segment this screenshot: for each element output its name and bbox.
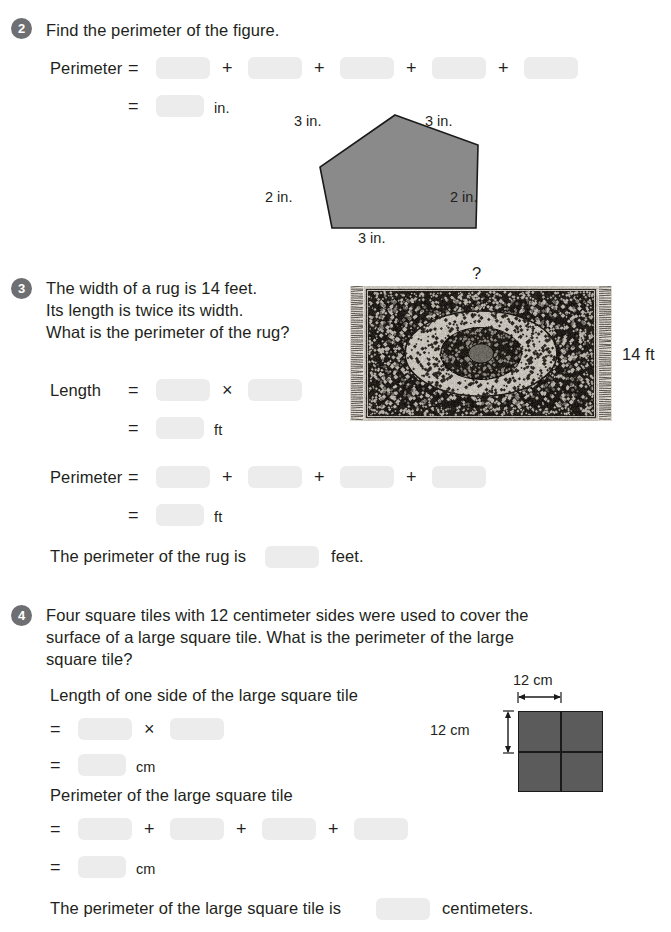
q4-side-equals-1: = [50, 718, 61, 740]
pentagon-label-right: 2 in. [450, 189, 477, 205]
q4-perimeter-equals-1: = [50, 818, 61, 840]
q3-perimeter-equals: = [128, 466, 139, 488]
q3-conclusion-prefix: The perimeter of the rug is [50, 545, 246, 568]
q3-length-label: Length [50, 379, 101, 402]
q3-conclusion-suffix: feet. [331, 545, 364, 568]
q4-side-blank-1[interactable] [78, 718, 132, 740]
q3-perimeter-blank-3[interactable] [340, 466, 394, 488]
q4-perimeter-unit: cm [136, 858, 156, 881]
q4-perimeter-plus-3: + [328, 818, 339, 840]
q4-perimeter-blank-3[interactable] [262, 818, 316, 840]
q3-perimeter-plus-3: + [406, 466, 417, 488]
tile-diagram: 12 cm 12 cm [420, 672, 671, 802]
q4-side-result-blank[interactable] [78, 754, 126, 776]
q2-plus-1: + [222, 57, 233, 79]
q4-prompt-line-3: square tile? [46, 648, 133, 671]
rug-canvas [350, 286, 612, 421]
rug-top-label: ? [472, 262, 481, 285]
q2-blank-1[interactable] [156, 57, 210, 79]
q2-plus-3: + [406, 57, 417, 79]
q4-prompt-line-2: surface of a large square tile. What is … [46, 626, 514, 649]
q3-perimeter-label: Perimeter [50, 466, 122, 489]
q2-result-blank[interactable] [156, 95, 204, 117]
q2-result-unit: in. [214, 97, 230, 120]
rug-image [350, 286, 612, 421]
q3-prompt-line-3: What is the perimeter of the rug? [46, 321, 290, 344]
q4-side-equals-2: = [50, 754, 61, 776]
q3-perimeter-blank-4[interactable] [432, 466, 486, 488]
q4-perimeter-plus-2: + [236, 818, 247, 840]
q2-equals-1: = [128, 57, 139, 79]
q3-perimeter-plus-2: + [314, 466, 325, 488]
question-number-2: 2 [11, 18, 32, 39]
q4-perimeter-result-blank[interactable] [78, 856, 126, 878]
q2-blank-3[interactable] [340, 57, 394, 79]
q2-blank-5[interactable] [524, 57, 578, 79]
pentagon-label-top-right: 3 in. [425, 113, 452, 129]
q3-length-unit: ft [214, 419, 222, 442]
q2-blank-4[interactable] [432, 57, 486, 79]
tile-divider-horizontal [518, 751, 603, 753]
q4-prompt-line-1: Four square tiles with 12 centimeter sid… [46, 604, 528, 627]
q3-perimeter-result-equals: = [128, 504, 139, 526]
q3-length-times: × [222, 379, 233, 401]
q4-perimeter-equals-2: = [50, 856, 61, 878]
q3-prompt-line-2: Its length is twice its width. [46, 299, 243, 322]
worksheet-page: 2 Find the perimeter of the figure. Peri… [0, 0, 671, 932]
q4-conclusion-prefix: The perimeter of the large square tile i… [50, 897, 341, 920]
q4-perimeter-heading: Perimeter of the large square tile [50, 784, 293, 807]
q4-side-times: × [144, 718, 155, 740]
q2-perimeter-label: Perimeter [50, 57, 122, 80]
q4-side-blank-2[interactable] [170, 718, 224, 740]
q3-length-blank-1[interactable] [156, 379, 210, 401]
pentagon-figure: 3 in. 3 in. 2 in. 2 in. 3 in. [270, 105, 530, 245]
q2-prompt: Find the perimeter of the figure. [46, 19, 280, 42]
q4-perimeter-blank-1[interactable] [78, 818, 132, 840]
pentagon-label-left: 2 in. [265, 189, 292, 205]
rug-side-label: 14 ft [622, 343, 655, 366]
question-number-4: 4 [11, 605, 32, 626]
q3-perimeter-unit: ft [214, 506, 222, 529]
q4-conclusion-suffix: centimeters. [442, 897, 533, 920]
pentagon-label-top-left: 3 in. [294, 113, 321, 129]
q3-perimeter-result-blank[interactable] [156, 504, 204, 526]
question-number-3: 3 [11, 278, 32, 299]
q2-plus-2: + [314, 57, 325, 79]
q3-length-result-blank[interactable] [156, 417, 204, 439]
q3-length-equals: = [128, 379, 139, 401]
q3-perimeter-plus-1: + [222, 466, 233, 488]
pentagon-label-bottom: 3 in. [358, 230, 385, 246]
q2-plus-4: + [498, 57, 509, 79]
q4-side-unit: cm [136, 756, 156, 779]
q3-length-result-equals: = [128, 417, 139, 439]
tile-left-label: 12 cm [430, 722, 470, 738]
q4-side-heading: Length of one side of the large square t… [50, 684, 358, 707]
q3-perimeter-blank-2[interactable] [248, 466, 302, 488]
q4-perimeter-blank-2[interactable] [170, 818, 224, 840]
q3-perimeter-blank-1[interactable] [156, 466, 210, 488]
q4-perimeter-plus-1: + [144, 818, 155, 840]
q3-prompt-line-1: The width of a rug is 14 feet. [46, 277, 257, 300]
q4-conclusion-blank[interactable] [376, 898, 430, 920]
q3-length-blank-2[interactable] [248, 379, 302, 401]
q4-perimeter-blank-4[interactable] [354, 818, 408, 840]
q3-conclusion-blank[interactable] [265, 546, 319, 568]
q2-blank-2[interactable] [248, 57, 302, 79]
q2-equals-2: = [128, 95, 139, 117]
